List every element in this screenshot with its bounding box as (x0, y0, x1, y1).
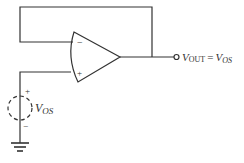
source-minus-sign: − (23, 121, 28, 131)
source-plus-sign: + (25, 86, 30, 96)
output-label: VOUT=VOS (182, 51, 232, 65)
circuit-diagram: − + + − VOS VOUT=VOS (0, 0, 244, 163)
inverting-input-sign: − (77, 37, 83, 48)
noninverting-input-sign: + (77, 68, 82, 78)
output-terminal (174, 55, 179, 60)
source-label: VOS (35, 101, 54, 116)
feedback-wire (20, 7, 152, 57)
ground-icon (11, 143, 29, 151)
